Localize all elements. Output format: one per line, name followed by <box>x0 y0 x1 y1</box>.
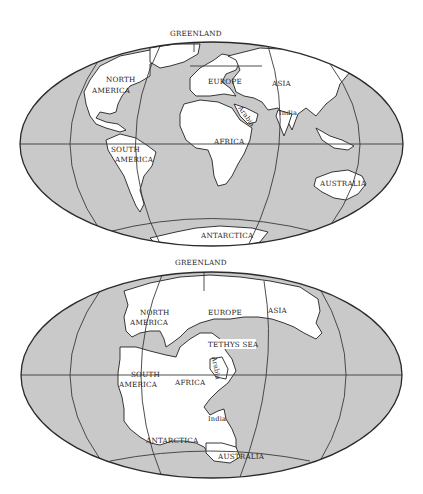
label-australia: AUSTRALIA <box>319 179 367 188</box>
label-tethys-sea: TETHYS SEA <box>208 340 259 349</box>
present-day-world-map: GREENLAND NORTH AMERICA EUROPE ASIA Arab… <box>0 0 423 247</box>
label-antarctica: ANTARCTICA <box>200 231 254 240</box>
pangaea-world-map: GREENLAND NORTH AMERICA EUROPE ASIA TETH… <box>0 247 423 494</box>
label-greenland: GREENLAND <box>170 29 222 38</box>
present-day-map-svg: GREENLAND NORTH AMERICA EUROPE ASIA Arab… <box>0 0 423 247</box>
label-africa: AFRICA <box>213 137 245 146</box>
label-europe: EUROPE <box>208 308 242 317</box>
label-north-america: AMERICA <box>91 86 131 95</box>
label-antarctica: ANTARCTICA <box>145 436 199 445</box>
label-south-america: SOUTH <box>131 370 160 379</box>
label-south-america: AMERICA <box>118 380 158 389</box>
label-australia: AUSTRALIA <box>217 452 265 461</box>
label-south-america: AMERICA <box>114 155 154 164</box>
label-africa: AFRICA <box>174 378 206 387</box>
label-north-america: NORTH <box>140 308 170 317</box>
label-south-america: SOUTH <box>111 145 140 154</box>
label-greenland: GREENLAND <box>175 258 227 267</box>
label-india: India <box>279 109 297 117</box>
label-india: India <box>208 415 226 423</box>
label-europe: EUROPE <box>208 77 242 86</box>
label-north-america: NORTH <box>106 75 136 84</box>
label-asia: ASIA <box>271 79 292 88</box>
label-north-america: AMERICA <box>129 318 169 327</box>
label-asia: ASIA <box>267 306 288 315</box>
pangaea-map-svg: GREENLAND NORTH AMERICA EUROPE ASIA TETH… <box>0 247 423 494</box>
